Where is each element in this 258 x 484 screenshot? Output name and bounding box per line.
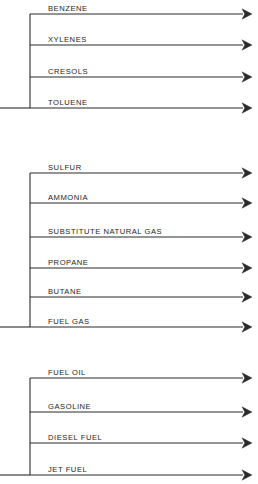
stream-label: SUBSTITUTE NATURAL GAS bbox=[48, 227, 162, 236]
arrow-head-icon bbox=[242, 168, 252, 178]
stream-branch: FUEL GAS bbox=[30, 317, 252, 332]
stream-branch: XYLENES bbox=[30, 35, 252, 50]
stream-label: XYLENES bbox=[48, 35, 87, 44]
group-gases: SULFURAMMONIASUBSTITUTE NATURAL GASPROPA… bbox=[0, 163, 252, 332]
stream-label: FUEL OIL bbox=[48, 368, 86, 377]
stream-branch: JET FUEL bbox=[30, 465, 252, 480]
stream-branch: DIESEL FUEL bbox=[30, 433, 252, 448]
flow-group-container: BENZENEXYLENESCRESOLSTOLUENESULFURAMMONI… bbox=[0, 4, 252, 480]
stream-branch: BENZENE bbox=[30, 4, 252, 19]
stream-label: BENZENE bbox=[48, 4, 88, 13]
stream-label: SULFUR bbox=[48, 163, 82, 172]
stream-branch: FUEL OIL bbox=[30, 368, 252, 383]
arrow-head-icon bbox=[242, 407, 252, 417]
stream-label: PROPANE bbox=[48, 258, 88, 267]
arrow-head-icon bbox=[242, 40, 252, 50]
stream-branch: BUTANE bbox=[30, 287, 252, 302]
stream-label: BUTANE bbox=[48, 287, 82, 296]
arrow-head-icon bbox=[242, 322, 252, 332]
arrow-head-icon bbox=[242, 72, 252, 82]
stream-label: FUEL GAS bbox=[48, 317, 90, 326]
stream-label: JET FUEL bbox=[48, 465, 87, 474]
stream-branch: SUBSTITUTE NATURAL GAS bbox=[30, 227, 252, 242]
stream-label: TOLUENE bbox=[48, 98, 88, 107]
group-aromatics: BENZENEXYLENESCRESOLSTOLUENE bbox=[0, 4, 252, 113]
process-flow-diagram: BENZENEXYLENESCRESOLSTOLUENESULFURAMMONI… bbox=[0, 0, 258, 484]
stream-branch: CRESOLS bbox=[30, 67, 252, 82]
stream-branch: PROPANE bbox=[30, 258, 252, 273]
arrow-head-icon bbox=[242, 373, 252, 383]
arrow-head-icon bbox=[242, 292, 252, 302]
arrow-head-icon bbox=[242, 232, 252, 242]
arrow-head-icon bbox=[242, 198, 252, 208]
stream-label: GASOLINE bbox=[48, 402, 91, 411]
group-fuels: FUEL OILGASOLINEDIESEL FUELJET FUEL bbox=[0, 368, 252, 480]
flow-canvas: BENZENEXYLENESCRESOLSTOLUENESULFURAMMONI… bbox=[0, 0, 258, 484]
stream-label: DIESEL FUEL bbox=[48, 433, 102, 442]
stream-branch: GASOLINE bbox=[30, 402, 252, 417]
stream-branch: SULFUR bbox=[30, 163, 252, 178]
stream-branch: TOLUENE bbox=[30, 98, 252, 113]
stream-label: AMMONIA bbox=[48, 193, 89, 202]
arrow-head-icon bbox=[242, 470, 252, 480]
arrow-head-icon bbox=[242, 103, 252, 113]
arrow-head-icon bbox=[242, 263, 252, 273]
stream-branch: AMMONIA bbox=[30, 193, 252, 208]
arrow-head-icon bbox=[242, 438, 252, 448]
stream-label: CRESOLS bbox=[48, 67, 88, 76]
arrow-head-icon bbox=[242, 9, 252, 19]
